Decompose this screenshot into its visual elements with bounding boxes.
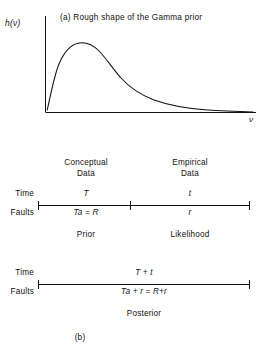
time-symbol-empirical: t: [189, 189, 191, 199]
y-axis-label: h(ν): [5, 18, 21, 28]
panel-b-timelines: Conceptual Data Empirical Data Time Faul…: [0, 132, 261, 354]
x-axis-label: ν: [249, 115, 253, 124]
gamma-density-curve: [47, 43, 253, 112]
row-label-time-upper: Time: [15, 189, 34, 199]
faults-symbol-empirical: r: [189, 208, 192, 218]
faults-symbol-conceptual: Ta = R: [73, 208, 98, 218]
row-label-faults-upper: Faults: [11, 208, 35, 218]
row-label-faults-lower: Faults: [11, 287, 35, 297]
segment-heading-conceptual: Conceptual Data: [64, 158, 107, 179]
row-label-time-lower: Time: [15, 268, 34, 278]
segment-heading-conceptual-line1: Conceptual: [64, 158, 107, 167]
time-symbol-posterior: T + t: [135, 268, 153, 278]
figure-root: h(ν) (a) Rough shape of the Gamma prior …: [0, 0, 261, 354]
segment-footer-posterior: Posterior: [127, 309, 162, 319]
faults-symbol-posterior: Ta + r = R+r: [121, 287, 167, 297]
time-symbol-conceptual: T: [83, 189, 88, 199]
segment-heading-empirical-line2: Data: [181, 169, 199, 178]
panel-a-gamma-prior: h(ν) (a) Rough shape of the Gamma prior …: [0, 0, 261, 132]
segment-heading-conceptual-line2: Data: [77, 169, 95, 178]
panel-b-caption: (b): [75, 333, 86, 343]
timeline-graphics: [0, 132, 261, 354]
panel-a-caption: (a) Rough shape of the Gamma prior: [60, 13, 202, 22]
segment-footer-likelihood: Likelihood: [171, 230, 210, 240]
segment-footer-prior: Prior: [77, 230, 95, 240]
segment-heading-empirical-line1: Empirical: [172, 158, 207, 167]
segment-heading-empirical: Empirical Data: [172, 158, 207, 179]
